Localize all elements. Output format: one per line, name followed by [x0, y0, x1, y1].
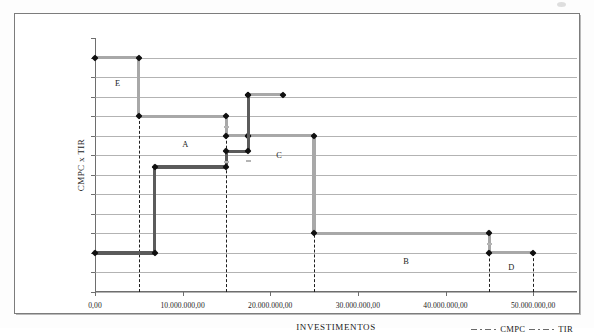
region-label-d: D: [508, 262, 514, 271]
y-tick-mark: [91, 194, 95, 195]
step-tick: [224, 126, 229, 128]
step-tick: [224, 161, 229, 163]
series-segment-v-tir: [137, 58, 140, 117]
series-segment-h-tir: [248, 134, 314, 137]
x-tick-mark: [358, 292, 359, 296]
data-point-marker: [223, 163, 230, 170]
x-tick-label: 20.000.000,00: [248, 302, 292, 310]
chart-frame: 19,00%18,50%18,00%17,50%17,00%16,50%16,0…: [14, 13, 580, 314]
region-label-b: B: [403, 256, 409, 265]
gridline: [95, 194, 577, 195]
y-tick-mark: [91, 136, 95, 137]
data-point-marker: [245, 148, 252, 155]
data-point-marker: [530, 249, 537, 256]
data-point-marker: [151, 249, 158, 256]
series-segment-h-cmpc: [95, 251, 155, 254]
legend-item-cmpc: CMPC: [471, 324, 525, 334]
x-tick-label: 40.000.000,00: [423, 302, 467, 310]
y-tick-mark: [91, 77, 95, 78]
gridline: [95, 175, 577, 176]
region-label-e: E: [115, 78, 120, 87]
x-tick-label: 50.000.000,00: [511, 302, 555, 310]
series-segment-h-cmpc: [155, 165, 227, 168]
legend-label: TIR: [558, 324, 573, 334]
y-tick-mark: [91, 272, 95, 273]
y-tick-mark: [91, 175, 95, 176]
x-tick-label: 0,00: [88, 302, 102, 310]
reference-line: [533, 253, 534, 292]
series-segment-h-tir: [248, 93, 283, 96]
legend-label: CMPC: [500, 324, 525, 334]
series-segment-h-tir: [95, 56, 139, 59]
region-label-c: C: [276, 151, 282, 160]
series-segment-h-tir: [489, 251, 533, 254]
gridline: [95, 272, 577, 273]
x-tick-mark: [95, 292, 96, 296]
reference-line: [226, 116, 227, 292]
gridline: [95, 155, 577, 156]
gridline: [95, 136, 577, 137]
x-tick-mark: [446, 292, 447, 296]
y-tick-mark: [91, 116, 95, 117]
scan-artifact: [557, 2, 566, 7]
chart-legend: CMPCTIR: [471, 324, 573, 334]
x-axis-title: INVESTIMENTOS: [296, 322, 376, 332]
reference-line: [139, 116, 140, 292]
series-segment-h-tir: [314, 232, 489, 235]
step-tick: [246, 160, 251, 162]
y-axis-title: CMPC x TIR: [76, 139, 86, 191]
legend-line-icon: [471, 326, 497, 333]
x-tick-mark: [183, 292, 184, 296]
y-tick-mark: [91, 214, 95, 215]
gridline: [95, 77, 577, 78]
step-tick: [487, 243, 492, 245]
y-tick-mark: [91, 38, 95, 39]
legend-item-tir: TIR: [529, 324, 573, 334]
series-segment-v-cmpc: [153, 167, 157, 253]
x-tick-label: 30.000.000,00: [336, 302, 380, 310]
y-tick-mark: [91, 233, 95, 234]
gridline: [95, 97, 577, 98]
x-tick-mark: [270, 292, 271, 296]
series-segment-v-cmpc: [247, 95, 251, 152]
y-tick-mark: [91, 97, 95, 98]
plot-area: 19,00%18,50%18,00%17,50%17,00%16,50%16,0…: [95, 38, 577, 292]
gridline: [95, 58, 577, 59]
gridline: [95, 214, 577, 215]
y-tick-mark: [91, 155, 95, 156]
series-segment-h-tir: [139, 115, 227, 118]
legend-line-icon: [529, 326, 555, 333]
gridline: [95, 292, 577, 293]
x-tick-mark: [533, 292, 534, 296]
region-label-a: A: [182, 139, 188, 148]
series-segment-v-tir: [312, 136, 315, 234]
x-tick-label: 10.000.000,00: [160, 302, 204, 310]
